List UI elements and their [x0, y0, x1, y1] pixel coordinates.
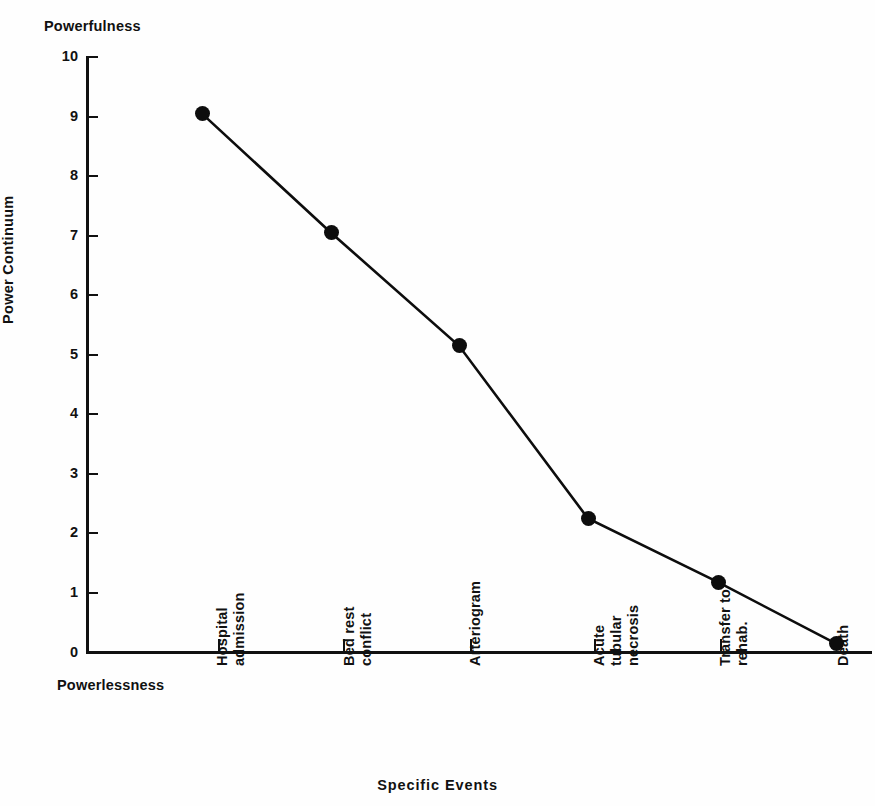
figure-canvas: Powerfulness Powerlessness Power Continu…: [0, 0, 875, 806]
data-point-marker: [711, 575, 726, 590]
series-polyline: [202, 114, 836, 644]
data-point-marker: [195, 106, 210, 121]
data-series-line: [0, 0, 875, 806]
data-point-marker: [324, 225, 339, 240]
plot-area: 012345678910 HospitaladmissionBed restco…: [0, 0, 875, 806]
data-point-marker: [581, 511, 596, 526]
data-point-marker: [829, 636, 844, 651]
data-point-marker: [452, 338, 467, 353]
